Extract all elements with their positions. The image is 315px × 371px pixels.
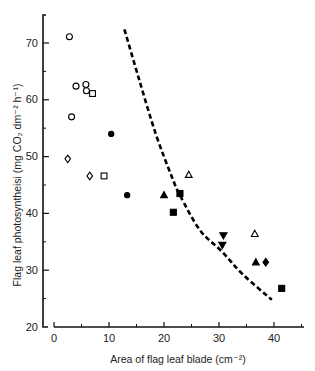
open-diamond-marker	[65, 155, 71, 163]
open-circle-marker	[83, 81, 89, 87]
filled-square-marker	[170, 209, 176, 215]
scatter-chart: 20 30 40 50 60 70 0 10 20 30 40 Area of …	[0, 0, 315, 371]
filled-square-marker	[177, 191, 183, 197]
filled-inverted-triangle-marker	[220, 233, 227, 239]
x-tick-label-10: 10	[103, 332, 115, 344]
fitted-dashed-curve	[124, 29, 271, 299]
open-triangle-marker	[251, 230, 258, 236]
filled-triangle-marker	[161, 192, 168, 198]
y-tick-label-70: 70	[26, 37, 38, 49]
filled-triangle-marker	[252, 259, 259, 265]
x-ticks	[54, 322, 302, 327]
open-diamond-marker	[87, 172, 93, 180]
axes	[43, 15, 304, 327]
open-circle-marker	[69, 114, 75, 120]
open-circle-marker	[66, 34, 72, 40]
open-square-marker	[90, 91, 96, 97]
open-triangle-marker	[185, 171, 192, 177]
data-markers	[65, 34, 285, 292]
x-tick-label-0: 0	[51, 332, 57, 344]
y-tick-label-50: 50	[26, 150, 38, 162]
y-tick-label-30: 30	[26, 264, 38, 276]
filled-square-marker	[279, 285, 285, 291]
y-tick-label-60: 60	[26, 93, 38, 105]
y-ticks	[43, 43, 49, 299]
y-tick-labels: 20 30 40 50 60 70	[26, 37, 38, 333]
filled-diamond-marker	[263, 258, 269, 266]
y-tick-label-20: 20	[26, 321, 38, 333]
x-axis-title: Area of flag leaf blade (cm⁻²)	[110, 353, 246, 365]
x-tick-label-30: 30	[213, 332, 225, 344]
y-axis-title: Flag leaf photosyntheisi (mg CO₂ dm⁻² h⁻…	[11, 84, 23, 287]
x-tick-labels: 0 10 20 30 40	[51, 332, 280, 344]
y-axis-line	[43, 15, 48, 327]
x-tick-label-20: 20	[158, 332, 170, 344]
filled-inverted-triangle-marker	[219, 242, 226, 248]
filled-circle-marker	[109, 131, 114, 136]
filled-circle-marker	[125, 193, 130, 198]
y-tick-label-40: 40	[26, 207, 38, 219]
x-tick-label-40: 40	[268, 332, 280, 344]
open-square-marker	[101, 173, 107, 179]
open-circle-marker	[83, 88, 89, 94]
open-circle-marker	[73, 83, 79, 89]
